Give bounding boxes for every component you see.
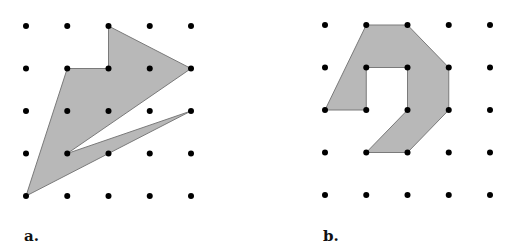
grid-dot xyxy=(487,150,493,156)
grid-dot xyxy=(405,65,411,71)
grid-dot xyxy=(322,107,328,113)
grid-dot xyxy=(64,193,70,199)
grid-dot xyxy=(147,193,153,199)
grid-dot xyxy=(106,108,112,114)
grid-dot xyxy=(446,107,452,113)
grid-dot xyxy=(106,23,112,29)
grid-dot xyxy=(405,22,411,28)
figure-label-a: a. xyxy=(24,227,39,245)
grid-dot xyxy=(188,151,194,157)
grid-dot xyxy=(23,151,29,157)
shaded-polygon-b xyxy=(325,25,449,153)
grid-dot xyxy=(64,108,70,114)
figure-a: a. xyxy=(23,23,194,245)
grid-dot xyxy=(188,66,194,72)
grid-dot xyxy=(147,108,153,114)
grid-dot xyxy=(322,150,328,156)
grid-dot xyxy=(64,66,70,72)
grid-dot xyxy=(363,150,369,156)
grid-dot xyxy=(188,108,194,114)
grid-dot xyxy=(487,107,493,113)
grid-dot xyxy=(147,23,153,29)
grid-dot xyxy=(188,193,194,199)
grid-dot xyxy=(446,150,452,156)
grid-dot xyxy=(106,151,112,157)
grid-dot xyxy=(322,192,328,198)
grid-dot xyxy=(188,23,194,29)
grid-dot xyxy=(446,192,452,198)
grid-dot xyxy=(405,107,411,113)
figure-label-b: b. xyxy=(323,227,339,245)
grid-dot xyxy=(446,65,452,71)
grid-dot xyxy=(487,65,493,71)
grid-dot xyxy=(64,151,70,157)
grid-dot xyxy=(363,192,369,198)
figure-b: b. xyxy=(322,22,493,245)
grid-dot xyxy=(487,22,493,28)
grid-dot xyxy=(363,65,369,71)
grid-dot xyxy=(322,65,328,71)
grid-dot xyxy=(23,108,29,114)
grid-dot xyxy=(363,107,369,113)
grid-dot xyxy=(23,23,29,29)
grid-dot xyxy=(147,66,153,72)
grid-dot xyxy=(322,22,328,28)
grid-dot xyxy=(106,193,112,199)
grid-dot xyxy=(106,66,112,72)
grid-dot xyxy=(446,22,452,28)
grid-dot xyxy=(147,151,153,157)
grid-dot xyxy=(23,66,29,72)
grid-dot xyxy=(363,22,369,28)
grid-dot xyxy=(487,192,493,198)
figure-canvas: a. b. xyxy=(0,0,513,249)
grid-dot xyxy=(64,23,70,29)
grid-dot xyxy=(405,192,411,198)
grid-dot xyxy=(405,150,411,156)
grid-dot xyxy=(23,193,29,199)
